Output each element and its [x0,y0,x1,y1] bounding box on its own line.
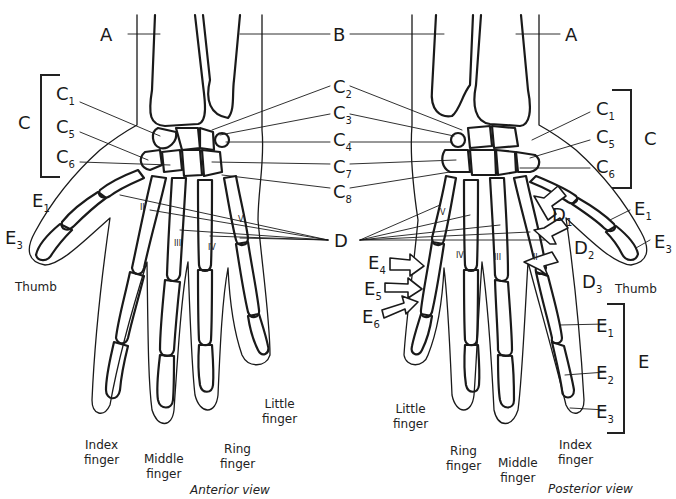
numeral-iii-posterior: III [494,250,501,265]
caption-thumb-anterior: Thumb [15,280,57,295]
label-c6-anterior: C6 [56,148,75,174]
caption-middle-posterior: Middlefinger [498,456,538,486]
label-c1-posterior: C1 [596,100,615,126]
label-c5-posterior: C5 [596,128,615,154]
numeral-ii-posterior: II [533,250,538,265]
caption-little-posterior: Littlefinger [393,402,428,432]
hand-bones-diagram: A B A C C1 C5 C6 C2 C3 C4 C7 C8 D E1 E3 … [0,0,676,499]
numeral-v-posterior: V [440,205,445,220]
label-e1-index: E1 [596,317,614,343]
label-c8: C8 [333,183,352,209]
label-c1-anterior: C1 [56,85,75,111]
label-d1: D1 [552,206,572,232]
caption-index-anterior: Indexfinger [84,438,119,468]
label-c-anterior: C [18,114,31,132]
label-e1-posterior: E1 [634,200,652,226]
label-e2-index: E2 [596,364,614,390]
bracket-c-right [612,89,632,189]
caption-index-posterior: Indexfinger [558,438,593,468]
label-c4: C4 [333,131,352,157]
caption-middle-anterior: Middlefinger [144,452,184,482]
caption-little-anterior: Littlefinger [262,397,297,427]
label-c5-anterior: C5 [56,118,75,144]
numeral-ii-anterior: II [140,200,145,215]
label-e1-anterior: E1 [32,192,50,218]
label-a-anterior: A [100,26,112,44]
label-e: E [638,353,649,371]
pointer-arrows [382,186,568,318]
label-c2: C2 [333,78,352,104]
label-d3: D3 [582,273,602,299]
label-e6: E6 [362,308,380,334]
label-e5: E5 [364,280,382,306]
numeral-iv-anterior: IV [208,240,216,255]
label-e3-index: E3 [596,403,614,429]
caption-ring-anterior: Ringfinger [220,442,255,472]
numeral-iv-posterior: IV [456,248,464,263]
label-e4: E4 [368,254,386,280]
label-a-posterior: A [565,26,577,44]
caption-thumb-posterior: Thumb [615,282,657,297]
anterior-view-caption: Anterior view [190,483,270,497]
label-e3-posterior: E3 [654,233,672,259]
numeral-v-anterior: V [238,212,243,227]
label-d2: D2 [574,239,594,265]
posterior-view-caption: Posterior view [548,482,633,496]
numeral-iii-anterior: III [174,236,181,251]
label-c6-posterior: C6 [596,158,615,184]
label-b: B [333,26,345,44]
label-d: D [334,232,348,250]
label-c3: C3 [333,104,352,130]
label-c-posterior: C [644,130,657,148]
caption-ring-posterior: Ringfinger [446,444,481,474]
label-e3-anterior: E3 [5,229,23,255]
